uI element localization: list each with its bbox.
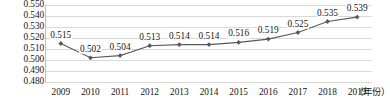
data-point-label: 0.514: [198, 31, 220, 40]
y-axis-tick-label: 0.510: [0, 44, 44, 53]
y-axis-tick-label: 0.540: [0, 11, 44, 20]
data-point-marker: [88, 55, 93, 60]
data-point-label: 0.525: [287, 19, 309, 28]
data-point-label: 0.516: [228, 29, 250, 38]
data-point-marker: [325, 19, 330, 24]
y-axis-tick-labels: 0.5500.5400.5300.5200.5100.5000.4900.480: [0, 0, 44, 86]
data-point-marker: [266, 37, 271, 42]
data-point-marker: [147, 43, 152, 48]
y-axis-tick-label: 0.500: [0, 55, 44, 64]
data-point-marker: [236, 40, 241, 45]
y-axis-tick-label: 0.480: [0, 77, 44, 86]
x-axis-tick-label: 2010: [81, 88, 100, 97]
x-axis-tick-label: 2011: [111, 88, 129, 97]
data-point-marker: [118, 53, 123, 58]
x-axis-tick-label: 2014: [200, 88, 219, 97]
y-axis-tick-label: 0.520: [0, 33, 44, 42]
data-point-label: 0.515: [50, 30, 72, 39]
x-axis-tick-label: 2015: [229, 88, 248, 97]
data-point-marker: [296, 30, 301, 35]
data-point-label: 0.514: [168, 31, 190, 40]
data-point-label: 0.539: [346, 4, 368, 13]
y-axis-tick-label: 0.550: [0, 0, 44, 9]
x-axis-tick-label: 2013: [170, 88, 189, 97]
data-point-label: 0.535: [317, 8, 339, 17]
plot-area: 0.5150.5020.5040.5130.5140.5140.5160.519…: [46, 5, 372, 82]
data-point-label: 0.504: [109, 42, 131, 51]
y-axis-tick-label: 0.490: [0, 66, 44, 75]
gridline: [46, 82, 372, 83]
x-axis-tick-label: 2009: [52, 88, 71, 97]
data-point-label: 0.519: [257, 26, 279, 35]
data-point-label: 0.513: [139, 32, 161, 41]
data-point-marker: [207, 42, 212, 47]
x-axis-tick-labels: 2009201020112012201320142015201620172018…: [46, 88, 372, 102]
x-axis-tick-label: 2012: [140, 88, 159, 97]
x-axis-unit-label: （年份）: [354, 88, 390, 97]
data-point-marker: [177, 42, 182, 47]
x-axis-tick-label: 2017: [289, 88, 308, 97]
y-axis-tick-label: 0.530: [0, 22, 44, 31]
data-point-marker: [355, 15, 360, 20]
line-chart: 0.5500.5400.5300.5200.5100.5000.4900.480…: [0, 0, 390, 107]
x-axis-tick-label: 2016: [259, 88, 278, 97]
data-point-label: 0.502: [79, 45, 101, 54]
x-axis-tick-label: 2018: [318, 88, 337, 97]
data-point-marker: [58, 41, 63, 46]
